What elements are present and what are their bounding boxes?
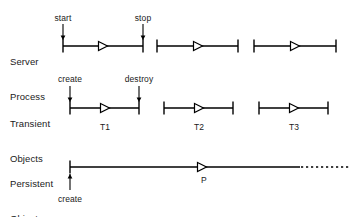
segment-caption-t1: T1 [100, 122, 110, 132]
object-lifetime-diagram: Server Process Transient Objects Persist… [0, 0, 362, 217]
row-label-line2: Object [10, 213, 53, 218]
annotation-arrow-destroy-icon-head [137, 98, 142, 103]
row-label-line1: Persistent [10, 178, 53, 190]
annotation-arrow-start-icon-head [61, 36, 66, 41]
annotation-arrow-stop-icon-head [141, 36, 146, 41]
annotation-label-create-bottom: create [58, 194, 82, 204]
row-transient-objects [68, 86, 328, 115]
server-seg-1-direction-arrow-icon [99, 42, 108, 51]
annotation-label-stop: stop [135, 13, 151, 23]
diagram-canvas [0, 0, 362, 217]
annotation-arrow-start-icon [61, 24, 66, 40]
persistent-seg-1-direction-arrow-icon [198, 163, 207, 172]
segment-caption-t2: T2 [194, 122, 204, 132]
row-persistent-object [68, 161, 349, 191]
transient-seg-3-direction-arrow-icon [290, 104, 299, 113]
server-seg-2-direction-arrow-icon [194, 42, 203, 51]
annotation-label-create: create [58, 74, 82, 84]
annotation-arrow-create-icon [68, 86, 73, 102]
annotation-arrow-destroy-icon [137, 86, 142, 102]
transient-seg-1-direction-arrow-icon [101, 104, 110, 113]
transient-seg-2-direction-arrow-icon [195, 104, 204, 113]
annotation-arrow-stop-icon [141, 24, 146, 40]
segment-caption-p: P [201, 175, 207, 185]
row-server-process [61, 24, 336, 53]
annotation-arrow-create-icon-head [68, 98, 73, 103]
annotation-label-destroy: destroy [125, 74, 154, 84]
annotation-arrow-create-bottom-icon [68, 174, 73, 190]
row-label-line1: Transient [10, 118, 50, 130]
annotation-arrow-create-bottom-icon-head [68, 174, 73, 179]
server-seg-3-direction-arrow-icon [291, 42, 300, 51]
row-label-line1: Server [10, 56, 45, 68]
segment-caption-t3: T3 [289, 122, 299, 132]
row-label-persistent-object: Persistent Object [10, 155, 53, 217]
annotation-label-start: start [54, 13, 71, 23]
